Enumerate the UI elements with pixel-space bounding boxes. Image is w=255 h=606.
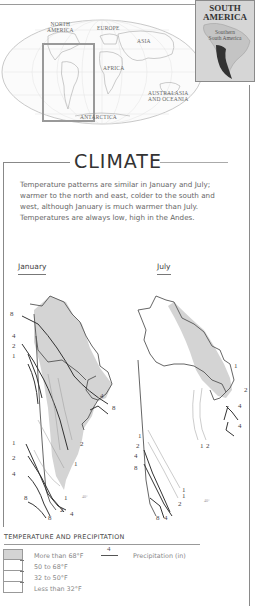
- label-north-america: NORTH AMERICA: [47, 21, 74, 33]
- svg-text:1: 1: [64, 494, 68, 502]
- svg-text:40°: 40°: [204, 498, 210, 503]
- svg-text:2: 2: [12, 454, 16, 462]
- swatch-50-to-68: [3, 560, 23, 571]
- svg-text:4: 4: [238, 402, 242, 410]
- legend-tick: [20, 571, 24, 572]
- svg-text:1: 1: [12, 352, 16, 360]
- svg-text:4: 4: [238, 422, 242, 430]
- svg-text:4: 4: [100, 392, 104, 400]
- svg-text:8: 8: [48, 514, 52, 520]
- frame-top-rule: [0, 4, 195, 5]
- svg-text:8: 8: [24, 494, 28, 502]
- svg-text:1: 1: [234, 362, 238, 370]
- world-locator-map: NORTH AMERICA EUROPE ASIA AFRICA AUSTRAL…: [0, 14, 210, 129]
- svg-text:4: 4: [134, 452, 138, 460]
- svg-text:2: 2: [60, 506, 64, 514]
- legend-50-to-68: 50 to 68°F: [34, 563, 68, 571]
- swatch-more-than-68: [3, 549, 23, 560]
- svg-text:4: 4: [12, 332, 16, 340]
- svg-text:4: 4: [70, 510, 74, 518]
- precipitation-label: Precipitation (in): [133, 552, 186, 560]
- svg-text:1: 1: [138, 432, 142, 440]
- svg-text:8: 8: [112, 404, 116, 412]
- svg-text:2: 2: [244, 386, 248, 394]
- svg-text:2: 2: [178, 500, 182, 508]
- climate-rule-right: [160, 162, 228, 163]
- inset-subtitle: Southern South America: [196, 29, 254, 41]
- swatch-32-to-50: [3, 571, 23, 582]
- svg-text:8: 8: [156, 514, 160, 520]
- inset-map-graphic: [196, 1, 254, 81]
- label-africa: AFRICA: [103, 65, 124, 71]
- svg-text:1: 1: [182, 492, 186, 500]
- world-map-graphic: [0, 14, 210, 129]
- svg-text:2: 2: [206, 442, 210, 450]
- svg-text:1: 1: [200, 442, 204, 450]
- svg-text:2: 2: [80, 440, 84, 448]
- svg-text:1: 1: [74, 460, 78, 468]
- legend-tick: [20, 582, 24, 583]
- swatch-less-than-32: [3, 582, 23, 593]
- legend-title: TEMPERATURE AND PRECIPITATION: [4, 533, 200, 545]
- july-climate-map: 1 2 4 4 1 2 4 8 1 2 1 2 1 8 4 40°: [134, 280, 250, 520]
- legend-tick: [20, 560, 24, 561]
- legend-32-to-50: 32 to 50°F: [34, 574, 68, 582]
- svg-text:40°: 40°: [82, 494, 88, 499]
- svg-text:8: 8: [134, 464, 138, 472]
- july-label: July: [157, 262, 171, 275]
- climate-title: CLIMATE: [74, 148, 160, 174]
- svg-text:4: 4: [164, 514, 168, 520]
- climate-rule-left: [3, 162, 70, 163]
- label-antarctica: ANTARCTICA: [80, 114, 117, 120]
- svg-text:2: 2: [136, 442, 140, 450]
- svg-text:4: 4: [12, 470, 16, 478]
- label-europe: EUROPE: [97, 25, 120, 31]
- svg-text:8: 8: [10, 310, 14, 318]
- climate-frame-left: [3, 162, 4, 527]
- january-label: January: [18, 262, 46, 275]
- label-australasia: AUSTRALASIA AND OCEANIA: [148, 90, 188, 102]
- svg-text:2: 2: [12, 342, 16, 350]
- svg-text:1: 1: [12, 439, 16, 447]
- legend-more-than-68: More than 68°F: [34, 552, 83, 560]
- legend-less-than-32: Less than 32°F: [34, 585, 82, 593]
- climate-description: Temperature patterns are similar in Janu…: [20, 179, 225, 223]
- precipitation-sample-value: 4: [107, 545, 111, 553]
- january-climate-map: 8 4 2 1 8 4 1 2 4 8 2 1 1 2 8 4 40°: [8, 280, 130, 520]
- label-asia: ASIA: [137, 38, 151, 44]
- precipitation-line-icon: [101, 555, 118, 556]
- south-america-inset: SOUTH AMERICA Southern South America: [195, 0, 255, 82]
- climate-page: NORTH AMERICA EUROPE ASIA AFRICA AUSTRAL…: [0, 0, 255, 606]
